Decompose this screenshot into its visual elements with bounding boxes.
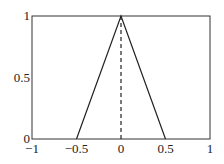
x-tick-label: −0.5 [65, 141, 89, 156]
y-tick-label: 0 [24, 131, 31, 146]
plot-frame [32, 16, 210, 139]
x-tick-label: 1 [207, 141, 214, 156]
series-triangle [77, 16, 166, 139]
series-layer [77, 16, 166, 139]
chart: −1−0.500.51 00.51 [0, 0, 224, 164]
y-tick-label: 1 [24, 8, 31, 23]
y-tick-label: 0.5 [14, 70, 30, 85]
y-axis-ticks: 00.51 [14, 8, 30, 146]
x-tick-label: 0 [118, 141, 125, 156]
x-axis-ticks: −1−0.500.51 [25, 141, 213, 156]
x-tick-label: 0.5 [157, 141, 173, 156]
